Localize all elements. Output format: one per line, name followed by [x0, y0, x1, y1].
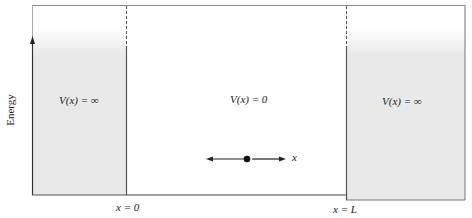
particle-axis-label: x — [292, 151, 297, 163]
square-well-diagram — [0, 0, 472, 218]
boundary-label-x0: x = 0 — [116, 201, 139, 213]
left-region-label: V(x) = ∞ — [59, 94, 99, 106]
center-region-label: V(x) = 0 — [230, 93, 267, 105]
right-region-label: V(x) = ∞ — [382, 95, 422, 107]
particle-dot-icon — [244, 156, 251, 163]
y-axis-label: Energy — [4, 94, 16, 126]
left-arrowhead-icon — [206, 157, 213, 162]
boundary-label-xL: x = L — [333, 203, 357, 215]
right-arrowhead-icon — [279, 157, 286, 162]
